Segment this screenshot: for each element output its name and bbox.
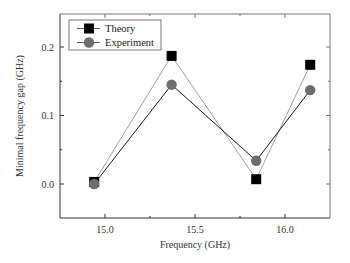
y-tick-label: 0.1 [42,110,55,121]
square-marker [167,51,177,61]
legend-square-marker [84,24,94,34]
x-tick-label: 15.5 [186,224,204,235]
circle-marker [251,156,261,166]
circle-marker [166,79,176,89]
legend-label: Theory [105,23,136,34]
y-tick-label: 0.2 [42,42,55,53]
y-tick-label: 0.0 [42,179,55,190]
square-marker [251,174,261,184]
x-tick-label: 15.0 [96,224,114,235]
series-experiment [89,79,315,189]
y-axis-title: Minimal frequency gap (GHz) [14,55,26,177]
series-theory [89,51,315,187]
x-tick-label: 16.0 [276,224,294,235]
circle-marker [89,179,99,189]
chart: 15.015.516.00.00.10.2 TheoryExperiment F… [0,0,350,263]
legend-circle-marker [84,37,94,47]
square-marker [305,60,315,70]
x-axis-title: Frequency (GHz) [160,239,230,251]
circle-marker [305,85,315,95]
theory-line [94,56,310,182]
legend-label: Experiment [105,37,154,48]
legend: TheoryExperiment [69,20,161,50]
data-series [89,51,315,189]
